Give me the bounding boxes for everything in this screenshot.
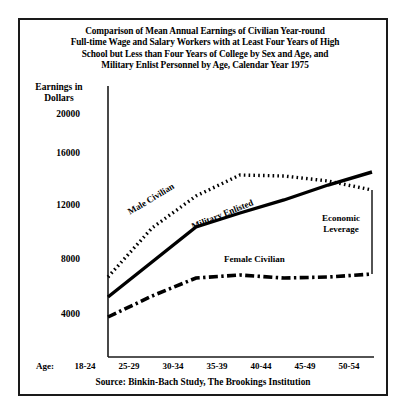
chart-title-line-2: Full-time Wage and Salary Workers with a… [48,37,362,48]
chart-source-note: Source: Binkin-Bach Study, The Brookings… [20,377,386,387]
x-axis-tick-30-34: 30-34 [150,361,196,371]
y-axis-tick-16000: 16000 [28,148,80,158]
annotation-economic-leverage-line-1: Economic [312,213,370,224]
chart-title-line-1: Comparison of Mean Annual Earnings of Ci… [48,26,362,37]
y-axis-tick-12000: 12000 [28,200,80,210]
series-label-female-civilian: Female Civilian [224,254,285,265]
y-axis-title: Earnings in Dollars [26,82,92,104]
chart-title: Comparison of Mean Annual Earnings of Ci… [48,26,362,71]
x-axis-tick-35-39: 35-39 [194,361,240,371]
y-axis-tick-8000: 8000 [28,254,80,264]
x-axis-tick-25-29: 25-29 [106,361,152,371]
x-axis-tick-50-54: 50-54 [326,361,372,371]
x-axis-tick-45-49: 45-49 [282,361,328,371]
x-axis-tick-40-44: 40-44 [238,361,284,371]
annotation-economic-leverage-line-2: Leverage [312,224,370,235]
y-axis-tick-4000: 4000 [28,309,80,319]
chart-title-line-4: Military Enlist Personnel by Age, Calend… [48,60,362,71]
y-axis-title-line-2: Dollars [26,93,92,104]
y-axis-tick-20000: 20000 [28,109,80,119]
annotation-economic-leverage: Economic Leverage [312,213,370,235]
x-axis-title: Age: [36,361,54,371]
chart-title-line-3: School but Less than Four Years of Colle… [48,49,362,60]
x-axis-tick-18-24: 18-24 [62,361,108,371]
chart-figure: Comparison of Mean Annual Earnings of Ci… [18,18,388,396]
y-axis-title-line-1: Earnings in [26,82,92,93]
series-female-civilian [108,274,372,317]
